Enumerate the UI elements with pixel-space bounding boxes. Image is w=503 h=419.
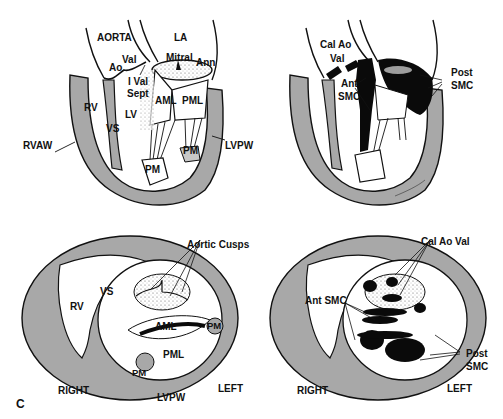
panel-top-left-drawing — [55, 20, 225, 205]
panel-bottom-left-drawing — [22, 236, 238, 400]
label-aml-short: AML — [155, 322, 177, 332]
label-aorta: AORTA — [97, 33, 132, 43]
label-cal-ao: Cal Ao — [320, 40, 351, 50]
label-ant-smc-short: Ant SMC — [305, 296, 347, 306]
label-ann: Ann — [196, 58, 215, 68]
label-pml: PML — [182, 96, 203, 106]
label-left: LEFT — [218, 384, 243, 394]
label-aortic-cusps: Aortic Cusps — [187, 240, 249, 250]
label-smc-short: SMC — [466, 362, 488, 372]
label-val: Val — [122, 55, 136, 65]
label-ao: Ao — [109, 63, 122, 73]
label-left-calcified: LEFT — [447, 384, 472, 394]
label-right: RIGHT — [58, 386, 89, 396]
panel-bottom-right-drawing — [270, 236, 486, 400]
label-la: LA — [174, 33, 187, 43]
label-cal-ao-val: Cal Ao Val — [421, 237, 470, 247]
label-post-smc: SMC — [451, 81, 473, 91]
label-val-calcified: Val — [330, 54, 344, 64]
label-vs-short: VS — [100, 287, 113, 297]
label-lvpw: LVPW — [225, 141, 253, 151]
heart-diagram-figure — [0, 0, 503, 419]
label-ant-smc: SMC — [338, 92, 360, 102]
label-pm-left: PM — [132, 368, 146, 378]
label-sept: Sept — [127, 89, 149, 99]
label-rvaw: RVAW — [23, 141, 52, 151]
label-pm-2: PM — [145, 165, 160, 175]
label-i-val: I Val — [128, 77, 148, 87]
label-mitral: Mitral — [166, 53, 193, 63]
panel-letter: C — [16, 398, 25, 410]
label-ant: Ant — [341, 79, 358, 89]
label-lvpw-short: LVPW — [157, 393, 185, 403]
label-rv: RV — [84, 103, 98, 113]
label-right-calcified: RIGHT — [297, 386, 328, 396]
label-aml: AML — [155, 96, 177, 106]
label-post-short: Post — [466, 349, 488, 359]
panel-top-right-drawing — [290, 20, 443, 205]
label-pm-1: PM — [183, 146, 198, 156]
label-lv: LV — [125, 110, 137, 120]
label-vs: VS — [106, 124, 119, 134]
label-pml-short: PML — [163, 350, 184, 360]
label-pm-right: PM — [207, 321, 221, 331]
label-post: Post — [451, 68, 473, 78]
label-rv-short: RV — [70, 302, 84, 312]
